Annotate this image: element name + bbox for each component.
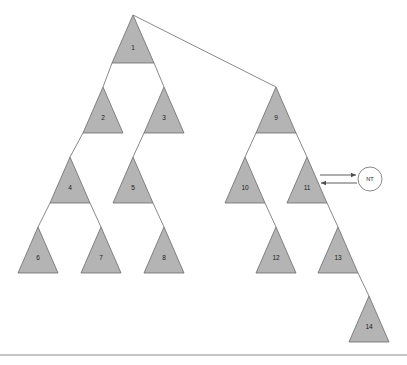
tree-node-label-7: 7 (99, 254, 103, 261)
edges-layer (38, 15, 369, 296)
tree-node-label-1: 1 (131, 44, 135, 51)
tree-node-triangle-3[interactable] (144, 87, 184, 133)
tree-node-triangle-8[interactable] (144, 227, 184, 273)
edge-n5-n8 (153, 203, 164, 227)
tree-node-triangle-13[interactable] (318, 227, 358, 273)
tree-node-triangle-4[interactable] (50, 157, 90, 203)
tree-node-triangle-9[interactable] (256, 87, 296, 133)
nt-label: NT (366, 176, 374, 182)
tree-node-label-11: 11 (304, 184, 311, 191)
edge-n4-n6 (38, 203, 50, 227)
edge-n9-n11 (296, 133, 307, 157)
tree-node-triangle-5[interactable] (113, 157, 153, 203)
tree-node-label-2: 2 (101, 114, 105, 121)
edge-n2-n4 (70, 133, 83, 157)
edge-n9-n10 (245, 133, 256, 157)
tree-node-triangle-10[interactable] (225, 157, 265, 203)
edge-n1-n9 (133, 15, 276, 87)
edge-n1-n3 (154, 63, 164, 87)
tree-node-triangle-7[interactable] (81, 227, 121, 273)
tree-node-label-5: 5 (131, 184, 135, 191)
nt-arrow-head-right-icon (351, 173, 356, 178)
edge-n11-n13 (327, 203, 338, 227)
tree-node-label-4: 4 (68, 184, 72, 191)
tree-node-triangle-14[interactable] (349, 296, 389, 342)
tree-node-label-3: 3 (162, 114, 166, 121)
tree-node-label-12: 12 (272, 254, 280, 261)
tree-node-triangle-12[interactable] (256, 227, 296, 273)
edge-n1-n2 (103, 63, 112, 87)
nt-arrow-head-left-icon (321, 181, 326, 186)
tree-node-label-9: 9 (274, 114, 278, 121)
tree-node-triangle-11[interactable] (287, 157, 327, 203)
labels-layer: 1234567891011121314 (36, 44, 373, 330)
triangles-layer (18, 15, 389, 342)
tree-node-label-6: 6 (36, 254, 40, 261)
tree-node-triangle-2[interactable] (83, 87, 123, 133)
edge-n3-n5 (133, 133, 144, 157)
tree-node-label-14: 14 (365, 323, 373, 330)
tree-node-label-10: 10 (241, 184, 249, 191)
tree-node-label-8: 8 (162, 254, 166, 261)
tree-node-triangle-6[interactable] (18, 227, 58, 273)
edge-n13-n14 (358, 273, 369, 296)
edge-n4-n7 (90, 203, 101, 227)
nt-annotation-group[interactable]: NT (320, 167, 382, 191)
edge-n10-n12 (265, 203, 276, 227)
tree-diagram: 1234567891011121314 NT (0, 0, 407, 365)
tree-node-label-13: 13 (334, 254, 342, 261)
